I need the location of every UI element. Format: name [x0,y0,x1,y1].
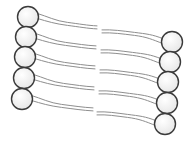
lipid-tail [101,50,161,59]
left-leaflet [12,7,98,111]
phospholipid-head [12,89,33,110]
lipid-tail [36,39,97,49]
lipid-tail [99,91,158,100]
lipid-molecule [18,7,98,29]
lipid-tail [100,70,159,79]
lipid-tail [34,80,95,90]
lipid-molecule [99,91,178,114]
lipid-tail [99,94,158,105]
lipid-tail [35,54,96,66]
lipid-tail [101,53,161,64]
lipid-tail [34,75,95,87]
phospholipid-head [158,72,179,93]
lipid-tail [102,30,163,39]
lipid-molecule [14,68,95,90]
phospholipid-head [157,93,178,114]
lipid-tail [36,34,97,46]
lipid-molecule [16,27,97,49]
phospholipid-head [16,27,37,48]
lipid-molecule [101,50,181,73]
lipid-tail [38,19,98,29]
phospholipid-head [14,68,35,89]
lipid-tail [97,115,156,126]
lipid-tail [38,14,98,26]
lipid-molecule [12,89,94,111]
lipid-tail [32,101,94,111]
phospholipid-head [15,47,36,68]
lipid-molecule [100,70,179,93]
lipid-tail [35,59,96,69]
phospholipid-head [162,32,183,53]
right-leaflet [97,30,183,135]
lipid-tail [97,112,156,121]
lipid-tail [102,33,163,44]
phospholipid-head [18,7,39,28]
lipid-tail [100,73,159,84]
lipid-tail [32,96,94,108]
phospholipid-head [160,52,181,73]
phospholipid-head [155,114,176,135]
lipid-molecule [15,47,96,69]
lipid-molecule [102,30,183,53]
lipid-molecule [97,112,176,135]
lipid-bilayer-diagram [0,0,188,143]
